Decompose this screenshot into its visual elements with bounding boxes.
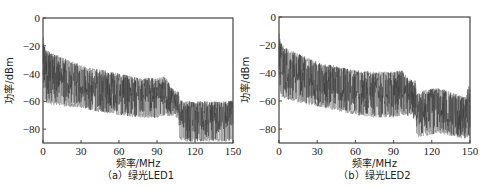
y-tick-label: 0 xyxy=(271,11,277,23)
x-tick-label: 90 xyxy=(388,145,400,157)
x-tick-label: 0 xyxy=(276,145,282,157)
y-tick-label: −40 xyxy=(23,68,41,80)
caption-a: （a）绿光LED1 xyxy=(102,169,174,181)
x-axis-label-a: 频率/MHz xyxy=(116,157,161,169)
y-tick-label: −20 xyxy=(259,39,277,51)
x-tick-label: 60 xyxy=(350,145,362,157)
y-tick-label: −60 xyxy=(259,95,277,107)
x-tick-label: 0 xyxy=(40,145,46,157)
y-tick-label: −80 xyxy=(23,123,41,135)
x-tick-label: 150 xyxy=(225,145,242,157)
panel-b-led2: 0306090120150 0−20−40−60−80 频率/MHz 功率/dB… xyxy=(239,11,479,181)
figure: 0306090120150 0−20−40−60−80 频率/MHz 功率/dB… xyxy=(0,0,487,188)
y-tick-label: −80 xyxy=(259,123,277,135)
x-tick-label: 120 xyxy=(424,145,441,157)
x-tick-label: 60 xyxy=(114,145,126,157)
x-tick-label: 30 xyxy=(312,145,324,157)
x-tick-label: 30 xyxy=(76,145,88,157)
plot-area-a xyxy=(43,37,233,141)
y-axis-label-a: 功率/dBm xyxy=(3,57,15,103)
plot-area-b xyxy=(279,33,470,138)
x-tick-label: 120 xyxy=(187,145,204,157)
panel-a-led1: 0306090120150 0−20−40−60−80 频率/MHz 功率/dB… xyxy=(3,12,242,181)
x-tick-label: 150 xyxy=(462,145,479,157)
y-axis-label-b: 功率/dBm xyxy=(239,57,251,103)
y-tick-label: −60 xyxy=(23,95,41,107)
x-axis-label-b: 频率/MHz xyxy=(352,157,397,169)
y-tick-label: 0 xyxy=(35,12,41,24)
caption-b: （b）绿光LED2 xyxy=(338,169,410,181)
y-tick-label: −20 xyxy=(23,40,41,52)
y-tick-label: −40 xyxy=(259,67,277,79)
x-tick-label: 90 xyxy=(152,145,164,157)
